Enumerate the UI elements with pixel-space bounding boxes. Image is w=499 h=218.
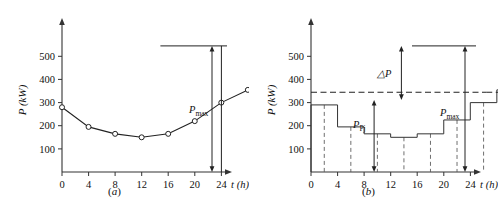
- y-ticklabel: 200: [39, 120, 55, 131]
- y-ticklabels-b: 100 200 300 400 500: [288, 51, 304, 155]
- caption-a: (a): [0, 185, 249, 197]
- pmax-arrowhead-up-a: [210, 46, 215, 52]
- x-ticks-b: [311, 172, 470, 176]
- figure-pair: 100 200 300 400 500 0 4 8 12: [0, 0, 499, 218]
- y-ticks-b: [307, 56, 311, 149]
- y-axis-arrowhead-a: [59, 18, 65, 25]
- y-ticklabel: 500: [39, 51, 55, 62]
- pmax-label-a: Pmax: [188, 104, 209, 118]
- data-point-marker: [192, 119, 197, 124]
- y-ticklabel: 100: [288, 144, 304, 155]
- pmax-label-b: Pmax: [439, 107, 460, 121]
- y-axis-label-a: P (kW): [16, 84, 29, 116]
- ppj-arrowhead-up-b: [372, 100, 377, 106]
- x-ticks-a: [62, 172, 221, 176]
- delta-p-label-b: △P: [376, 68, 392, 79]
- y-ticklabel: 400: [288, 74, 304, 85]
- axes-a: [62, 22, 228, 172]
- y-ticklabel: 300: [39, 97, 55, 108]
- panel-b: 100 200 300 400 500 0 4 8 12: [249, 0, 498, 218]
- panel-a: 100 200 300 400 500 0 4 8 12: [0, 0, 249, 218]
- y-ticklabels-a: 100 200 300 400 500: [39, 51, 55, 155]
- delta-p-arrowhead-up-b: [399, 46, 404, 52]
- y-axis-label-b: P (kW): [265, 84, 278, 116]
- ppj-arrowhead-down-b: [372, 166, 377, 172]
- pmax-arrowhead-up-b: [463, 46, 468, 52]
- load-histogram-outline-b: [311, 46, 498, 172]
- pmax-arrowhead-down-a: [210, 166, 215, 172]
- data-point-marker: [60, 105, 65, 110]
- y-ticklabel: 300: [288, 97, 304, 108]
- data-point-marker: [86, 124, 91, 129]
- y-ticklabel: 500: [288, 51, 304, 62]
- data-point-marker: [166, 131, 171, 136]
- bar-dashed-verticals-b: [324, 46, 498, 172]
- y-ticklabel: 100: [39, 144, 55, 155]
- y-ticks-a: [58, 56, 62, 149]
- ppj-label-b: PPj: [352, 119, 366, 133]
- y-ticklabel: 200: [288, 120, 304, 131]
- data-point-marker: [113, 131, 118, 136]
- caption-b: (b): [239, 185, 498, 197]
- x-axis-arrowhead-b: [474, 169, 481, 175]
- y-ticklabel: 400: [39, 74, 55, 85]
- load-curve-markers-a: [60, 43, 250, 139]
- axes-b: [311, 22, 477, 172]
- y-axis-arrowhead-b: [308, 18, 314, 25]
- x-axis-arrowhead-a: [225, 169, 232, 175]
- pmax-arrowhead-down-b: [463, 166, 468, 172]
- delta-p-arrowhead-down-b: [399, 94, 404, 100]
- data-point-marker: [139, 135, 144, 140]
